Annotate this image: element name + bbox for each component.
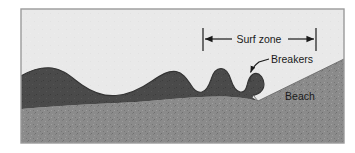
beach-label: Beach xyxy=(285,90,315,102)
surf-zone-label: Surf zone xyxy=(237,33,282,45)
scene-layers xyxy=(21,9,344,143)
figure-canvas: Surf zone Breakers Beach xyxy=(0,0,355,153)
coastal-profile-figure: Surf zone Breakers Beach xyxy=(0,0,355,153)
breakers-label: Breakers xyxy=(271,53,313,65)
